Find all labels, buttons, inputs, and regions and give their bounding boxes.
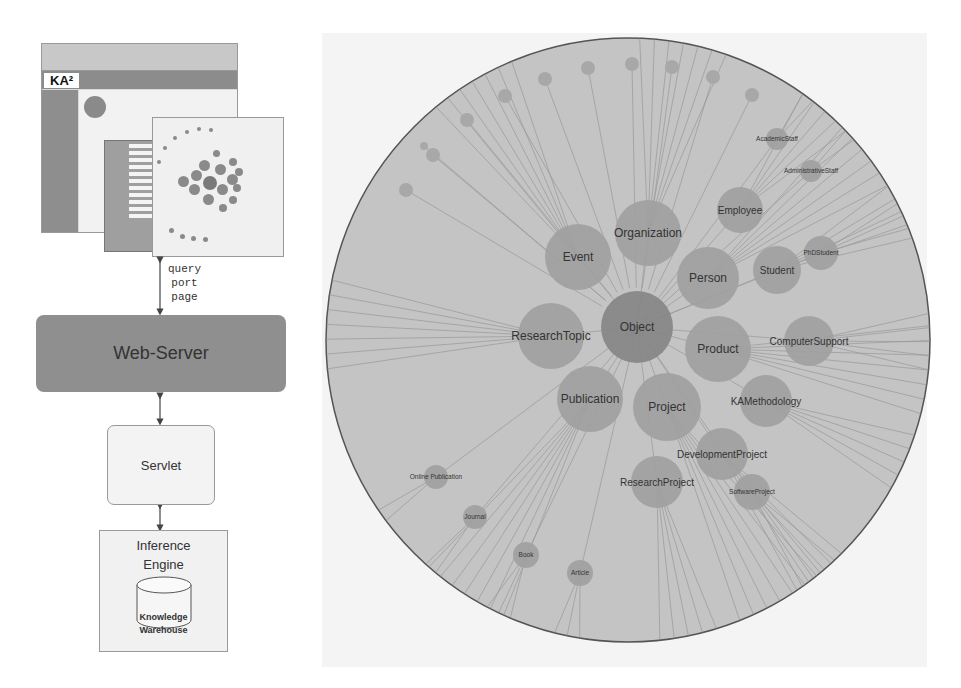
graph-node-small[interactable] [498,89,512,103]
graph-node-article[interactable]: Article [567,560,593,586]
graph-node-label: AcademicStaff [756,135,798,142]
graph-node-small[interactable] [706,70,720,84]
graph-node-person[interactable]: Person [677,247,739,309]
graph-node-label: Online Publication [410,473,463,480]
graph-node-small[interactable] [420,142,428,150]
graph-node-label: Product [697,342,739,356]
graph-node-label: DevelopmentProject [677,449,767,460]
graph-node-small[interactable] [460,113,474,127]
graph-node-student[interactable]: Student [753,246,801,294]
hyperbolic-ontology-graph[interactable]: ObjectOrganizationEventPersonResearchTop… [0,0,961,688]
graph-node-label: SoftwareProject [729,488,775,496]
graph-node-label: Employee [718,205,763,216]
graph-node-small[interactable] [399,183,413,197]
graph-node-employee[interactable]: Employee [717,187,763,233]
graph-node-small[interactable] [665,60,679,74]
graph-node-label: Publication [561,392,620,406]
graph-node-small[interactable] [581,61,595,75]
graph-node-label: Event [563,250,594,264]
graph-node-event[interactable]: Event [545,224,611,290]
graph-node-label: PhDStudent [803,249,838,256]
graph-node-label: AdministrativeStaff [784,167,838,174]
graph-node-object[interactable]: Object [601,291,673,363]
graph-node-label: Object [620,320,655,334]
graph-node-label: Project [648,400,686,414]
graph-node-label: ResearchProject [620,477,694,488]
graph-node-book[interactable]: Book [513,542,539,568]
graph-node-small[interactable] [745,88,759,102]
graph-node-publication[interactable]: Publication [557,366,623,432]
graph-node-label: ComputerSupport [770,336,849,347]
graph-node-small[interactable] [538,72,552,86]
graph-node-label: Organization [614,226,682,240]
graph-node-label: Journal [464,513,486,520]
graph-node-small[interactable] [426,148,440,162]
graph-node-label: ResearchTopic [511,329,590,343]
graph-node-product[interactable]: Product [685,316,751,382]
graph-node-small[interactable] [625,57,639,71]
graph-node-label: Person [689,271,727,285]
graph-node-label: Article [571,569,589,576]
graph-node-project[interactable]: Project [633,373,701,441]
graph-node-label: Student [760,265,795,276]
graph-node-label: Book [519,551,535,558]
graph-node-label: KAMethodology [731,396,802,407]
graph-node-journal[interactable]: Journal [463,505,487,529]
